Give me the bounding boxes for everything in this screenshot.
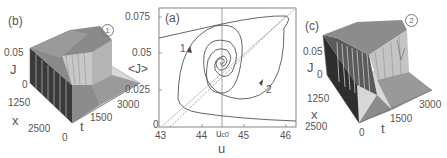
trajectory-label: 2	[266, 85, 272, 95]
panel-label: (b)	[8, 15, 23, 27]
panel-label: (a)	[165, 12, 180, 24]
z-tick: 0.05	[4, 48, 23, 58]
y-tick: 0.025	[125, 85, 150, 95]
t-axis-title: t	[381, 122, 385, 135]
z-axis-title: J	[10, 63, 17, 76]
y-tick: 0.075	[125, 12, 150, 22]
t-tick: 1500	[390, 114, 412, 124]
x-tick: 1250	[307, 94, 329, 104]
uc0-sub: c0	[222, 131, 229, 138]
t-tick: 0	[359, 128, 365, 138]
y-tick: 0.05	[132, 48, 151, 58]
z-tick: 0.05	[303, 47, 322, 57]
x-tick: 2500	[305, 122, 327, 132]
y-axis-title: <J>	[128, 63, 148, 75]
panel-c-3d-surface: (c) 2 0.05 J 0 1250 x 2500 0 t 1500 3000	[297, 0, 447, 158]
trajectory-marker: 1	[101, 24, 114, 37]
x-tick: 43	[155, 131, 166, 141]
x-axis-title: u	[218, 142, 225, 155]
t-tick: 1500	[90, 113, 112, 123]
t-tick: 0	[62, 133, 68, 143]
x-tick: 1250	[8, 98, 30, 108]
y-tick: 0	[153, 120, 159, 130]
z-tick: 0	[22, 80, 28, 90]
phase-plot-a	[120, 0, 305, 158]
x-tick: 2500	[28, 124, 50, 134]
x-tick-uc0: uc0	[216, 129, 229, 139]
x-tick: 44	[196, 131, 207, 141]
trajectory-label: 1	[180, 44, 186, 54]
x-tick: 45	[238, 131, 249, 141]
panel-label: (c)	[305, 20, 319, 32]
z-axis-title: J	[307, 61, 314, 74]
x-axis-title: x	[12, 114, 19, 127]
x-axis-title: x	[311, 108, 318, 121]
t-axis-title: t	[80, 120, 84, 133]
z-tick: 0	[317, 70, 323, 80]
t-tick: 3000	[419, 100, 441, 110]
x-tick: 46	[280, 131, 291, 141]
trajectory-marker: 2	[405, 14, 418, 27]
panel-a-phase-portrait: (a) 0.075 0.05 <J> 0.025 0 43 44 uc0 45 …	[120, 0, 305, 158]
